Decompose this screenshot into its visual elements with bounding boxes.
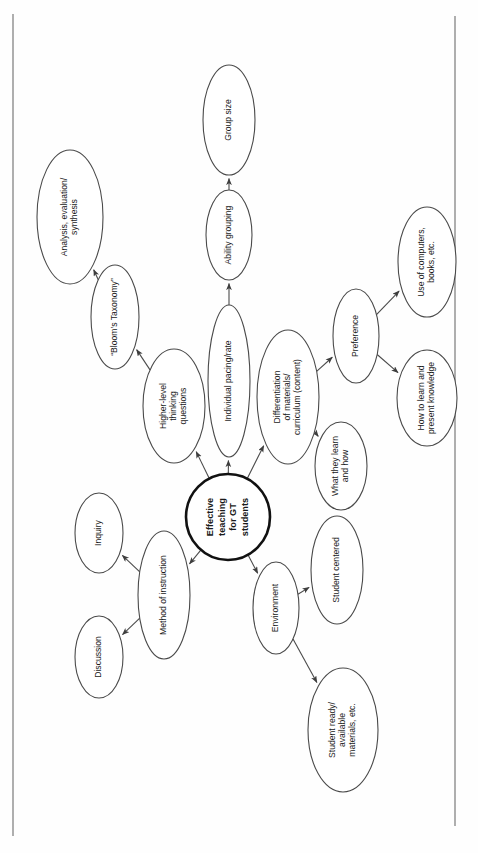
edge-environment-to-studentready: [293, 639, 317, 683]
node-whatlearn[interactable]: What they learnand how: [315, 422, 367, 510]
node-label-higher: Higher-level: [158, 383, 168, 429]
node-label-studentcenter: Student centered: [331, 537, 341, 603]
nodes-layer: Effectiveteachingfor GTstudents“Bloom’s …: [37, 65, 457, 792]
node-label-preference: Preference: [350, 315, 360, 357]
node-label-studentready: Student ready/: [327, 701, 337, 758]
node-label-center: teaching: [217, 498, 227, 536]
edge-diff-to-preference: [317, 357, 333, 371]
edge-higher-to-bloom: [137, 350, 150, 370]
node-inquiry[interactable]: Inquiry: [75, 493, 123, 573]
edge-center-to-method: [190, 550, 201, 564]
node-label-diff: Differentiation: [272, 370, 282, 423]
concept-map-canvas: Effectiveteachingfor GTstudents“Bloom’s …: [0, 0, 478, 853]
node-label-pacing: Individual pacing/rate: [223, 340, 233, 421]
node-bloom[interactable]: “Bloom’s Taxonomy”: [91, 265, 139, 369]
node-label-higher: questions: [178, 388, 188, 425]
node-environment[interactable]: Environment: [253, 562, 299, 654]
edge-method-to-inquiry: [122, 555, 139, 572]
node-label-discussion: Discussion: [93, 636, 103, 678]
edge-bloom-to-analysis: [94, 270, 99, 280]
node-label-center: Effective: [205, 498, 215, 536]
node-label-method: Method of instruction: [158, 555, 168, 635]
edge-method-to-discussion: [122, 618, 139, 634]
node-label-computers: Use of computers,: [416, 227, 426, 297]
node-higher[interactable]: Higher-levelthinkingquestions: [143, 349, 205, 463]
node-center[interactable]: Effectiveteachingfor GTstudents: [186, 474, 270, 560]
node-label-studentready: materials, etc.: [347, 703, 357, 757]
node-computers[interactable]: Use of computers,books, etc.: [398, 207, 456, 317]
node-label-ability: Ability grouping: [223, 205, 233, 264]
node-label-computers: books, etc.: [426, 241, 436, 283]
node-label-diff: of materials/: [282, 373, 292, 420]
edge-diff-to-whatlearn: [315, 432, 319, 437]
node-howlearn[interactable]: How to learn andpresent knowledge: [397, 350, 457, 446]
node-label-bloom: “Bloom’s Taxonomy”: [109, 278, 119, 356]
edge-center-to-environment: [248, 555, 258, 573]
node-label-whatlearn: and how: [340, 449, 350, 482]
node-label-groupsize: Group size: [223, 99, 233, 141]
node-preference[interactable]: Preference: [333, 289, 379, 383]
node-method[interactable]: Method of instruction: [138, 531, 190, 659]
edge-preference-to-howlearn: [377, 354, 398, 372]
node-diff[interactable]: Differentiationof materials/curriculum (…: [257, 330, 319, 464]
node-label-howlearn: present knowledge: [426, 362, 436, 434]
node-label-higher: thinking: [168, 391, 178, 421]
edge-preference-to-computers: [376, 291, 399, 315]
node-analysis[interactable]: Analysis, evaluation/synthesis: [37, 150, 103, 284]
node-label-diff: curriculum (content): [292, 359, 302, 435]
node-label-analysis: synthesis: [69, 199, 79, 235]
node-label-howlearn: How to learn and: [416, 365, 426, 430]
node-studentready[interactable]: Student ready/availablematerials, etc.: [308, 668, 378, 792]
edge-center-to-diff: [247, 446, 264, 479]
node-label-inquiry: Inquiry: [93, 519, 103, 545]
edge-environment-to-studentcenter: [298, 587, 309, 594]
node-label-studentready: available: [337, 713, 347, 747]
edge-center-to-higher: [196, 452, 209, 479]
node-label-environment: Environment: [270, 583, 280, 632]
node-ability[interactable]: Ability grouping: [206, 190, 252, 280]
node-groupsize[interactable]: Group size: [203, 65, 255, 175]
node-label-whatlearn: What they learn: [330, 436, 340, 496]
node-label-center: students: [240, 498, 250, 536]
scanned-page: Effectiveteachingfor GTstudents“Bloom’s …: [0, 0, 478, 853]
node-label-center: for GT: [228, 503, 238, 531]
node-label-analysis: Analysis, evaluation/: [59, 177, 69, 256]
node-pacing[interactable]: Individual pacing/rate: [208, 305, 250, 457]
node-discussion[interactable]: Discussion: [75, 616, 123, 698]
node-studentcenter[interactable]: Student centered: [311, 516, 363, 624]
